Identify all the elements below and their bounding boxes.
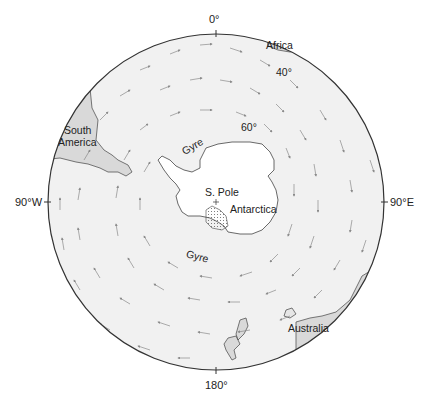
lat-label-60: 60° [241,122,257,133]
lon-label-180: 180° [205,380,228,391]
label-south-america-2: America [58,137,97,148]
label-south-pole: S. Pole [205,187,239,198]
lat-label-40: 40° [276,67,292,78]
lon-label-90e: 90°E [390,197,414,208]
label-africa: Africa [266,40,293,51]
label-antarctica: Antarctica [230,204,277,215]
lon-label-90w: 90°W [15,197,42,208]
label-south-america-1: South [64,125,91,136]
lon-label-0: 0° [209,14,220,25]
label-australia: Australia [288,323,329,334]
polar-map [0,0,434,400]
